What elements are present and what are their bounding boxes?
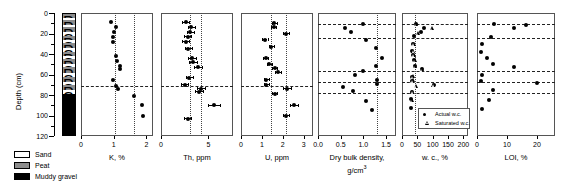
data-point-saturated — [431, 83, 435, 87]
x-tick-label: 0 — [149, 141, 173, 148]
error-bar-cap — [276, 26, 277, 29]
x-tick — [283, 136, 284, 139]
error-bar-cap — [274, 45, 275, 48]
x-axis-label-line2: g/cm3 — [298, 163, 416, 175]
depth-tick-minor — [51, 23, 54, 24]
error-bar-cap — [184, 117, 185, 120]
x-tick — [433, 136, 434, 139]
x-tick-label: 20 — [525, 141, 549, 148]
depth-tick-label: 80 — [28, 92, 48, 99]
reference-line-horizontal — [477, 93, 555, 94]
error-bar-cap — [298, 104, 299, 107]
reference-line-horizontal — [318, 24, 396, 25]
data-point-saturated — [412, 53, 416, 57]
x-tick-label: 0 — [465, 141, 489, 148]
data-point — [479, 79, 483, 83]
error-bar-cap — [193, 76, 194, 79]
data-point — [491, 88, 495, 92]
depth-tick-label: 20 — [28, 30, 48, 37]
data-point-saturated — [420, 67, 424, 71]
marker-legend-label: Actual w.c. — [435, 110, 461, 119]
data-point — [184, 20, 188, 24]
data-point — [487, 98, 491, 102]
reference-line-horizontal — [318, 82, 396, 83]
depth-tick-label: 120 — [28, 133, 48, 140]
x-tick-label: 10 — [495, 141, 519, 148]
error-bar-cap — [277, 67, 278, 70]
data-point-saturated — [416, 31, 420, 35]
depth-axis-line — [54, 13, 55, 136]
data-point — [409, 106, 413, 110]
reference-line-vertical — [377, 13, 378, 136]
open-triangle-icon — [425, 121, 429, 125]
error-bar-cap — [291, 87, 292, 90]
data-point — [263, 38, 267, 42]
reference-line-horizontal — [402, 38, 468, 39]
error-bar-cap — [202, 66, 203, 69]
data-point — [480, 42, 484, 46]
reference-line-horizontal — [318, 71, 396, 72]
legend-item: Peat — [14, 161, 124, 171]
legend-label: Muddy gravel — [35, 172, 77, 181]
error-bar-cap — [268, 38, 269, 41]
x-axis-label: LOI, % — [457, 153, 563, 162]
depth-tick-label: 40 — [28, 51, 48, 58]
x-tick — [161, 136, 162, 139]
depth-tick-major — [49, 116, 54, 117]
data-point — [285, 87, 289, 91]
x-tick — [208, 136, 209, 139]
data-point — [284, 114, 288, 118]
data-point — [183, 83, 187, 87]
data-point — [524, 23, 528, 27]
reference-line-horizontal — [318, 93, 396, 94]
error-bar-cap — [191, 117, 192, 120]
error-bar-cap — [196, 57, 197, 60]
x-tick — [146, 136, 147, 139]
data-point — [364, 38, 368, 42]
reference-line-horizontal — [477, 82, 555, 83]
legend-item: Muddy gravel — [14, 172, 124, 182]
error-bar-cap — [269, 83, 270, 86]
data-point-saturated — [410, 90, 414, 94]
error-bar-cap — [194, 66, 195, 69]
marker-legend-item: Actual w.c. — [419, 110, 469, 119]
x-tick — [341, 136, 342, 139]
error-bar-cap — [281, 71, 282, 74]
error-bar-cap — [220, 104, 221, 107]
u-panel — [241, 13, 313, 136]
data-point — [375, 82, 379, 86]
data-point-saturated — [414, 84, 418, 88]
depth-tick-label: 60 — [28, 71, 48, 78]
reference-line-horizontal — [477, 24, 555, 25]
x-tick — [304, 136, 305, 139]
data-point — [479, 50, 483, 54]
error-bar-cap — [203, 90, 204, 93]
data-point-saturated — [430, 26, 434, 30]
reference-line-horizontal — [477, 71, 555, 72]
lithology-band: Muddy gravel — [63, 94, 75, 136]
depth-axis-label: Depth (cm) — [14, 73, 23, 110]
error-bar-cap — [194, 31, 195, 34]
depth-profile-figure: 020406080100120Depth (cm)PeatSandPeatSan… — [0, 0, 563, 192]
data-point — [374, 46, 378, 50]
x-tick — [463, 136, 464, 139]
depth-tick-minor — [51, 64, 54, 65]
data-point — [485, 56, 489, 60]
data-point-saturated — [410, 98, 414, 102]
depth-tick-major — [49, 75, 54, 76]
error-bar-cap — [268, 57, 269, 60]
data-point — [111, 78, 115, 82]
x-tick — [318, 136, 319, 139]
legend-label: Peat — [35, 161, 49, 170]
depth-tick-major — [49, 95, 54, 96]
x-tick — [402, 136, 403, 139]
depth-tick-major — [49, 136, 54, 137]
data-point — [197, 90, 201, 94]
marker-legend: Actual w.c.Saturated w.c. — [418, 108, 470, 129]
reference-line-horizontal — [402, 71, 468, 72]
x-tick — [477, 136, 478, 139]
data-point — [186, 117, 190, 121]
x-tick — [417, 136, 418, 139]
error-bar-cap — [208, 104, 209, 107]
x-tick — [363, 136, 364, 139]
